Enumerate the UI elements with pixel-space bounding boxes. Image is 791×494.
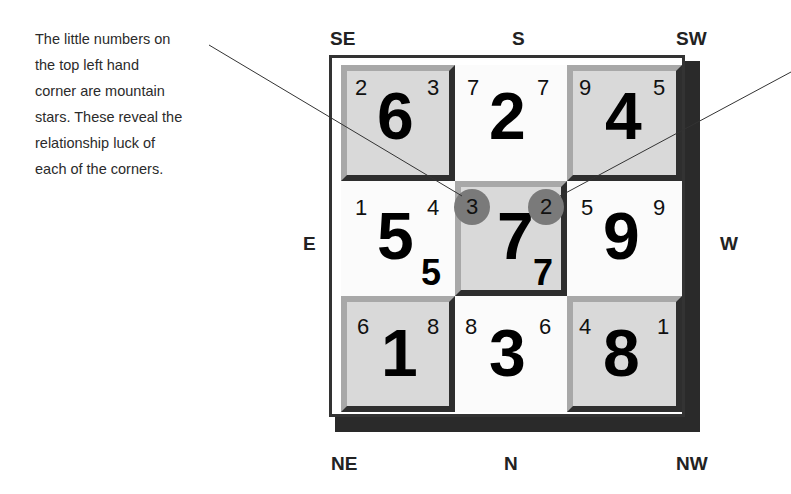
callout-line-right [560, 72, 791, 196]
callout-lines [0, 0, 791, 494]
callout-line-left [209, 45, 462, 196]
